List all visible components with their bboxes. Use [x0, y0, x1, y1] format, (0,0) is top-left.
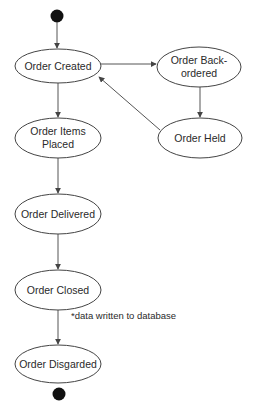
- state-label: Order Held: [174, 132, 226, 144]
- order-state-diagram: Order Created Order Back- ordered Order …: [0, 0, 255, 402]
- state-order-disgarded: Order Disgarded: [15, 345, 101, 383]
- state-label: Order Delivered: [21, 208, 95, 220]
- start-node-icon: [51, 10, 64, 23]
- state-label: Order Items: [30, 125, 85, 137]
- state-label: Placed: [42, 138, 74, 150]
- state-label: Order Closed: [27, 284, 90, 296]
- transition-annotation: *data written to database: [71, 310, 176, 321]
- state-order-held: Order Held: [158, 118, 242, 158]
- state-order-delivered: Order Delivered: [15, 194, 101, 234]
- state-label: Order Back-: [171, 54, 228, 66]
- state-label: ordered: [181, 67, 217, 79]
- edge-held-to-created: [99, 77, 160, 130]
- state-label: Order Disgarded: [19, 358, 97, 370]
- state-label: Order Created: [24, 60, 91, 72]
- state-order-backordered: Order Back- ordered: [157, 47, 241, 87]
- state-order-created: Order Created: [15, 49, 101, 83]
- state-order-items-placed: Order Items Placed: [15, 118, 101, 158]
- state-order-closed: Order Closed: [15, 270, 101, 310]
- end-node-icon: [53, 388, 66, 401]
